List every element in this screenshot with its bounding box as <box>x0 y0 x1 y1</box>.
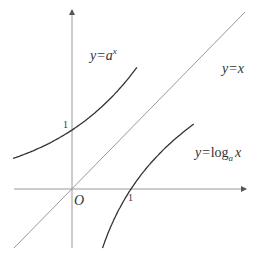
exponential-curve <box>13 67 137 158</box>
identity-label: y=x <box>220 61 245 76</box>
y-tick-label-1: 1 <box>63 119 68 130</box>
function-graph-diagram: y=ax y=x y=logax O 1 1 <box>0 0 257 262</box>
logarithm-curve <box>103 124 194 248</box>
x-tick-label-1: 1 <box>128 192 133 203</box>
origin-label: O <box>74 193 84 208</box>
graph-canvas: y=ax y=x y=logax O 1 1 <box>0 0 257 262</box>
exponential-label: y=ax <box>88 46 117 63</box>
logarithm-label: y=logax <box>193 145 242 163</box>
identity-line <box>14 12 245 248</box>
